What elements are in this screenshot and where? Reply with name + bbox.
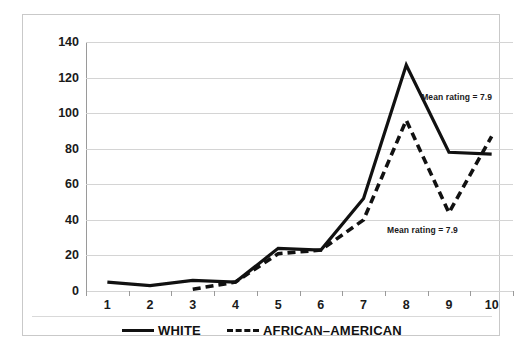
y-tick-label-140: 140 — [37, 35, 79, 49]
x-tick-label-9: 9 — [429, 298, 469, 312]
y-tick-label-60: 60 — [37, 177, 79, 191]
legend-separator — [32, 316, 492, 317]
x-tick-label-3: 3 — [173, 298, 213, 312]
x-tick-label-1: 1 — [87, 298, 127, 312]
x-tick-label-5: 5 — [258, 298, 298, 312]
annotation-mean-rating-2: Mean rating = 7.9 — [387, 225, 458, 235]
y-tick-label-40: 40 — [37, 213, 79, 227]
legend-label: AFRICAN–AMERICAN — [263, 323, 402, 338]
legend-swatch-dashed-icon — [227, 329, 259, 332]
x-tick-label-8: 8 — [386, 298, 426, 312]
plot-area: Mean rating = 7.9Mean rating = 7.9 — [86, 42, 513, 291]
chart-legend: WHITEAFRICAN–AMERICAN — [23, 320, 501, 340]
x-tick-mark-end — [513, 291, 514, 296]
legend-label: WHITE — [158, 323, 201, 338]
legend-swatch-solid-icon — [122, 329, 154, 332]
y-tick-label-120: 120 — [37, 71, 79, 85]
y-tick-label-100: 100 — [37, 106, 79, 120]
chart-frame: 020406080100120140 Mean rating = 7.9Mean… — [22, 14, 500, 336]
annotation-mean-rating-1: Mean rating = 7.9 — [421, 92, 492, 102]
y-tick-label-0: 0 — [37, 284, 79, 298]
series-lines — [86, 42, 513, 292]
legend-item-african-american[interactable]: AFRICAN–AMERICAN — [227, 323, 402, 338]
x-tick-label-10: 10 — [472, 298, 512, 312]
y-tick-label-80: 80 — [37, 142, 79, 156]
y-axis-tick-labels: 020406080100120140 — [31, 42, 79, 291]
y-tick-label-20: 20 — [37, 248, 79, 262]
x-tick-label-7: 7 — [344, 298, 384, 312]
x-tick-label-2: 2 — [130, 298, 170, 312]
x-tick-label-6: 6 — [301, 298, 341, 312]
x-tick-label-4: 4 — [215, 298, 255, 312]
legend-item-white[interactable]: WHITE — [122, 323, 201, 338]
